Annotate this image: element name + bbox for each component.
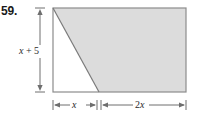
height-label-variable: x [19,45,23,56]
bottom-2x-label-variable: x [140,99,144,110]
bottom-2x-dimension-label: 2x [133,99,146,110]
height-label-constant: 5 [34,45,39,56]
shaded-trapezoid [53,8,186,92]
bottom-x-label-variable: x [72,99,76,110]
bottom-x-dimension-label: x [70,99,78,110]
geometry-figure-container: 59. [0,0,200,123]
height-dimension-label: x + 5 [18,45,40,56]
height-label-operator: + [26,45,32,56]
figure-drawing [0,0,200,123]
